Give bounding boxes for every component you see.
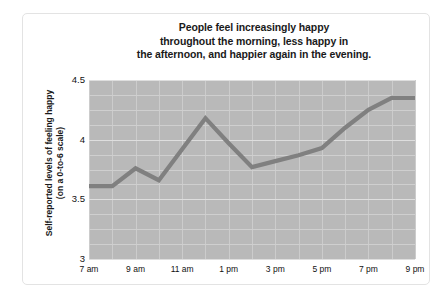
y-axis-tick-label: 3.5 bbox=[59, 194, 85, 204]
chart-title-line-3: the afternoon, and happier again in the … bbox=[89, 48, 419, 62]
y-axis-tick-label: 3 bbox=[59, 254, 85, 264]
x-axis-tick-labels: 7 am9 am11 am1 pm3 pm5 pm7 pm9 pm bbox=[89, 264, 415, 278]
gridline-horizontal bbox=[89, 259, 415, 260]
x-axis-tick-label: 1 pm bbox=[206, 264, 252, 274]
chart-title-line-1: People feel increasingly happy bbox=[89, 21, 419, 35]
x-axis-tick-label: 7 pm bbox=[345, 264, 391, 274]
y-axis-tick-label: 4 bbox=[59, 135, 85, 145]
x-axis-tick-label: 9 am bbox=[113, 264, 159, 274]
y-axis-tick-labels: 4.543.53 bbox=[55, 80, 85, 259]
happiness-series-line bbox=[89, 98, 415, 186]
series-line-chart bbox=[89, 80, 415, 259]
chart-title: People feel increasingly happy throughou… bbox=[89, 21, 419, 62]
plot-area bbox=[89, 80, 415, 259]
y-axis-tick-label: 4.5 bbox=[59, 75, 85, 85]
chart-card: People feel increasingly happy throughou… bbox=[22, 13, 430, 285]
gridline-vertical bbox=[415, 80, 416, 259]
x-axis-tick-label: 11 am bbox=[159, 264, 205, 274]
x-axis-tick-label: 5 pm bbox=[299, 264, 345, 274]
y-axis-title-line-1: Self-reported levels of feeling happy bbox=[44, 68, 55, 258]
chart-title-line-2: throughout the morning, less happy in bbox=[89, 35, 419, 49]
x-axis-tick-label: 3 pm bbox=[252, 264, 298, 274]
x-axis-tick-label: 9 pm bbox=[392, 264, 438, 274]
x-axis-tick-label: 7 am bbox=[66, 264, 112, 274]
